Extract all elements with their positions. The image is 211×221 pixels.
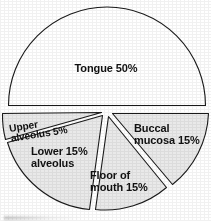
pie-label-tongue: Tongue 50% xyxy=(75,62,138,74)
pie-slice-tongue[interactable] xyxy=(9,7,206,106)
pie-label-floor-of-mouth-line1: Floor of xyxy=(90,169,131,181)
pie-label-floor-of-mouth-line2: mouth 15% xyxy=(90,181,148,193)
pie-chart-svg: Tongue 50% Upper alveolus 5% Lower 15% a… xyxy=(0,0,211,221)
pie-label-lower-alveolus-line2: alveolus xyxy=(31,157,74,169)
pie-label-buccal-mucosa-line2: mucosa 15% xyxy=(134,134,200,146)
pie-label-lower-alveolus-line1: Lower 15% xyxy=(31,145,88,157)
pie-chart-figure: Tongue 50% Upper alveolus 5% Lower 15% a… xyxy=(0,0,211,221)
pie-label-buccal-mucosa-line1: Buccal xyxy=(134,122,170,134)
